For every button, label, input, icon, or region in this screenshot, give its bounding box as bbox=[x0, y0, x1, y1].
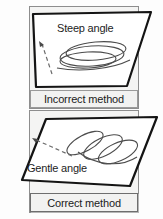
caption-incorrect-method: Incorrect method bbox=[30, 90, 138, 108]
label-steep-angle: Steep angle bbox=[57, 22, 114, 34]
label-gentle-angle: Gentle angle bbox=[27, 162, 87, 174]
caption-correct-method: Correct method bbox=[30, 193, 138, 212]
figure-root: Incorrect method Correct method bbox=[0, 0, 163, 219]
